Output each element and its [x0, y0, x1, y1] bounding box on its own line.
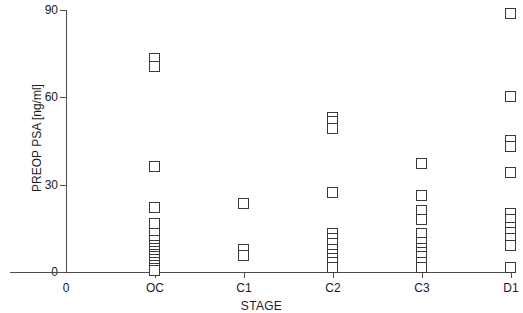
data-point-marker — [149, 161, 160, 172]
data-point-marker — [238, 250, 249, 261]
data-point-marker — [505, 141, 516, 152]
data-point-marker — [149, 202, 160, 213]
data-point-marker — [416, 262, 427, 273]
data-point-marker — [327, 187, 338, 198]
data-point-marker — [149, 265, 160, 276]
data-point-marker — [327, 123, 338, 134]
data-point-marker — [416, 190, 427, 201]
data-point-marker — [149, 61, 160, 72]
data-point-marker — [505, 262, 516, 273]
data-point-marker — [505, 240, 516, 251]
data-point-marker — [416, 214, 427, 225]
data-point-marker — [416, 158, 427, 169]
data-point-marker — [238, 198, 249, 209]
data-point-marker — [505, 91, 516, 102]
plot-area — [0, 0, 523, 313]
scatter-plot-chart: PREOP PSA [ng/ml] 0306090 STAGE 0OCC1C2C… — [0, 0, 523, 313]
data-point-marker — [505, 167, 516, 178]
data-point-marker — [505, 8, 516, 19]
data-point-marker — [327, 262, 338, 273]
